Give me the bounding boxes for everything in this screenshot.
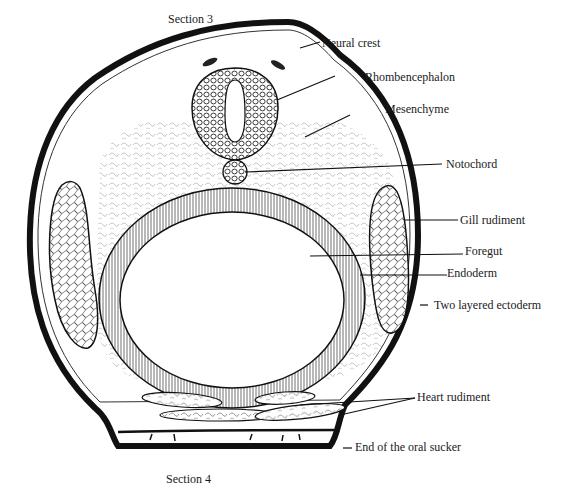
foregut (99, 188, 365, 408)
notochord (223, 160, 247, 184)
label-end-of-oral-sucker: End of the oral sucker (355, 440, 461, 454)
caption-section-3: Section 3 (168, 12, 213, 26)
label-two-layered-ectoderm: Two layered ectoderm (434, 298, 541, 312)
label-gill-rudiment: Gill rudiment (460, 213, 525, 227)
label-endoderm: Endoderm (447, 266, 497, 280)
label-rhombencephalon: Rhombencephalon (365, 70, 455, 84)
caption-section-4: Section 4 (166, 472, 211, 486)
label-notochord: Notochord (446, 157, 497, 171)
label-neural-crest: Neural crest (322, 36, 380, 50)
label-foregut: Foregut (465, 244, 502, 258)
label-heart-rudiment: Heart rudiment (417, 390, 490, 404)
label-mesenchyme: Mesenchyme (385, 102, 449, 116)
